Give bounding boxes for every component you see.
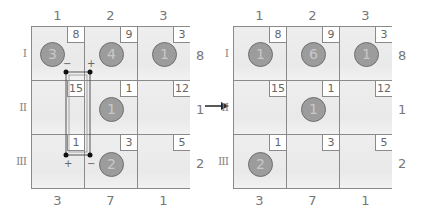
- column-demand: 1: [339, 193, 392, 208]
- disc: 1: [354, 42, 379, 67]
- column-demand: 7: [286, 193, 339, 208]
- column-label: 1: [233, 8, 286, 23]
- puzzle-before: 1 2 3 I II III 8 3 9 4 3 1 15 1 1 12 1: [0, 0, 200, 216]
- disc: 1: [99, 97, 124, 122]
- cell-clue: 3: [375, 27, 392, 43]
- row-label: III: [208, 155, 228, 168]
- cell-clue: 1: [269, 135, 286, 151]
- disc: 3: [40, 42, 65, 67]
- cell-clue: 9: [120, 27, 137, 43]
- column-demand: 3: [31, 193, 84, 208]
- cell: 8 1: [234, 27, 287, 81]
- cell-clue: 3: [322, 135, 339, 151]
- column-label: 2: [286, 8, 339, 23]
- loop-sign-bottom-right: −: [87, 158, 95, 169]
- disc: 1: [152, 42, 177, 67]
- column-demand: 3: [233, 193, 286, 208]
- cell: 1 1: [287, 81, 340, 135]
- cell: 1 2: [234, 135, 287, 188]
- cell-clue: 5: [375, 135, 392, 151]
- disc: 2: [99, 152, 124, 177]
- cell-clue: 15: [269, 81, 286, 97]
- cell: 1 1: [85, 81, 138, 135]
- cell-clue: 15: [67, 81, 84, 97]
- cell: 3: [287, 135, 340, 188]
- column-label: 3: [137, 8, 190, 23]
- grid: 8 3 9 4 3 1 15 1 1 12 1 3 2 5: [31, 26, 190, 189]
- loop-sign-top-right: +: [87, 58, 95, 69]
- row-supply: 1: [398, 102, 406, 117]
- cell: 5: [138, 135, 190, 188]
- row-label: I: [6, 47, 26, 60]
- row-label: III: [6, 155, 26, 168]
- row-label: II: [6, 101, 26, 114]
- cell-clue: 1: [120, 81, 137, 97]
- cell: 3 1: [340, 27, 392, 81]
- column-label: 1: [31, 8, 84, 23]
- row-supply: 8: [398, 48, 406, 63]
- cell: 8 3: [32, 27, 85, 81]
- grid: 8 1 9 6 3 1 15 1 1 12 1 2 3 5: [233, 26, 392, 189]
- column-demand: 1: [137, 193, 190, 208]
- cell-clue: 1: [67, 135, 84, 151]
- cell: 3 1: [138, 27, 190, 81]
- cell-clue: 12: [375, 81, 392, 97]
- disc: 1: [301, 97, 326, 122]
- cell-clue: 5: [173, 135, 190, 151]
- disc: 6: [301, 42, 326, 67]
- cell: 15: [234, 81, 287, 135]
- disc: 2: [248, 152, 273, 177]
- cell: 5: [340, 135, 392, 188]
- row-supply: 2: [398, 156, 406, 171]
- row-label: I: [208, 47, 228, 60]
- cell-clue: 3: [173, 27, 190, 43]
- row-label: II: [208, 101, 228, 114]
- cell: 9 4: [85, 27, 138, 81]
- cell: 1: [32, 135, 85, 188]
- cell: 15: [32, 81, 85, 135]
- cell: 9 6: [287, 27, 340, 81]
- cell-clue: 8: [269, 27, 286, 43]
- column-label: 3: [339, 8, 392, 23]
- cell-clue: 8: [67, 27, 84, 43]
- column-demand: 7: [84, 193, 137, 208]
- cell: 12: [138, 81, 190, 135]
- cell: 12: [340, 81, 392, 135]
- disc: 1: [248, 42, 273, 67]
- disc: 4: [99, 42, 124, 67]
- loop-sign-top-left: −: [63, 58, 71, 69]
- cell-clue: 3: [120, 135, 137, 151]
- puzzle-after: 1 2 3 I II III 8 1 9 6 3 1 15 1 1 12 1 2: [202, 0, 421, 216]
- cell-clue: 12: [173, 81, 190, 97]
- loop-sign-bottom-left: +: [64, 158, 72, 169]
- cell-clue: 9: [322, 27, 339, 43]
- column-label: 2: [84, 8, 137, 23]
- cell-clue: 1: [322, 81, 339, 97]
